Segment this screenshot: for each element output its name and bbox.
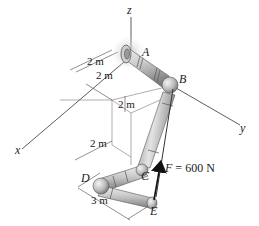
axis-label-z: z — [126, 3, 132, 17]
dimension-label-3: 2 m — [118, 98, 135, 110]
point-label-d: D — [80, 171, 90, 185]
point-label-b: B — [179, 72, 187, 86]
elbow-b — [162, 77, 178, 93]
point-label-a: A — [141, 45, 150, 59]
force-equals: = — [172, 161, 185, 175]
force-label: F = 600 N — [164, 161, 215, 175]
dimension-label-2: 2 m — [96, 69, 113, 81]
point-label-e: E — [149, 204, 158, 218]
y-axis — [176, 88, 240, 125]
force-magnitude: 600 N — [185, 161, 215, 175]
dimension-label-4: 2 m — [90, 137, 107, 149]
elbow-d — [93, 178, 109, 194]
axis-label-y: y — [239, 121, 246, 135]
axis-label-x: x — [14, 143, 21, 157]
force-arrow — [154, 166, 160, 200]
dimension-label-5: 3 m — [91, 194, 108, 206]
dimension-label-1: 2 m — [87, 55, 104, 67]
pipe-force-diagram: z x y A B C D E 2 m 2 m 2 m 2 m 3 m F = … — [0, 0, 259, 226]
point-label-c: C — [141, 169, 150, 183]
pipe-segment-bc — [138, 92, 175, 168]
